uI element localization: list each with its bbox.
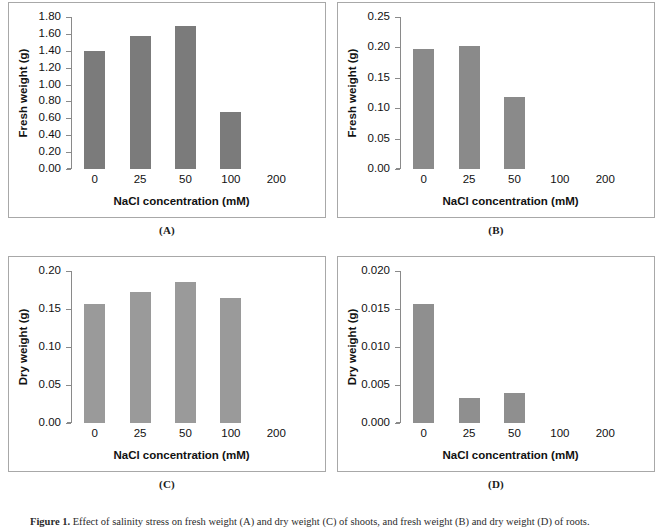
y-tick: 0.10 xyxy=(66,347,71,348)
y-tick: 0.80 xyxy=(66,101,71,102)
y-axis-title-text: Dry weight (g) xyxy=(346,309,358,386)
bar xyxy=(220,298,241,423)
y-tick-label: 1.80 xyxy=(39,9,61,24)
y-tick-label: 0.00 xyxy=(39,415,61,430)
bar xyxy=(504,97,525,169)
x-tick-label: 100 xyxy=(540,427,580,439)
bar xyxy=(413,49,434,169)
x-tick-label: 50 xyxy=(166,173,206,185)
y-tick: 0.20 xyxy=(395,47,400,48)
x-tick-label: 200 xyxy=(585,427,625,439)
y-axis-title-text: Fresh weight (g) xyxy=(17,49,29,138)
bar xyxy=(130,292,151,423)
panel-frame: Dry weight (g) 0.0000.0050.0100.0150.020… xyxy=(337,256,655,472)
x-tick-label: 200 xyxy=(585,173,625,185)
panel-label-b: (B) xyxy=(337,224,655,236)
x-tick-label: 25 xyxy=(120,173,160,185)
y-tick-label: 0.10 xyxy=(39,339,61,354)
panel-frame: Fresh weight (g) 0.000.200.400.600.801.0… xyxy=(8,2,326,218)
y-tick-label: 0.80 xyxy=(39,93,61,108)
x-tick-label: 50 xyxy=(495,173,535,185)
y-tick-label: 0.15 xyxy=(39,301,61,316)
figure-caption: Figure 1. Effect of salinity stress on f… xyxy=(30,515,640,532)
y-tick-label: 0.00 xyxy=(39,161,61,176)
y-tick: 1.00 xyxy=(66,85,71,86)
y-tick: 0.020 xyxy=(395,271,400,272)
y-tick: 1.40 xyxy=(66,51,71,52)
y-tick: 0.25 xyxy=(395,17,400,18)
bar xyxy=(84,304,105,423)
x-tick-label: 200 xyxy=(256,173,296,185)
y-tick: 0.010 xyxy=(395,347,400,348)
bar xyxy=(175,26,196,169)
plot-area: 0.000.050.100.150.20 xyxy=(71,271,299,423)
x-tick-label: 50 xyxy=(495,427,535,439)
y-axis-title: Dry weight (g) xyxy=(344,271,360,423)
chart-panel-c: Dry weight (g) 0.000.050.100.150.20 0255… xyxy=(8,256,328,506)
y-tick: 0.005 xyxy=(395,385,400,386)
y-tick: 0.60 xyxy=(66,118,71,119)
y-tick-label: 1.00 xyxy=(39,77,61,92)
bar-series xyxy=(401,17,628,169)
bar xyxy=(504,393,525,423)
y-tick-label: 0.20 xyxy=(39,263,61,278)
x-tick-label: 0 xyxy=(404,427,444,439)
bar xyxy=(459,398,480,423)
bar-series xyxy=(401,271,628,423)
y-tick-label: 0.010 xyxy=(361,339,390,354)
y-tick-label: 1.20 xyxy=(39,60,61,75)
x-axis-title: NaCl concentration (mM) xyxy=(49,195,314,207)
x-tick-label: 0 xyxy=(75,173,115,185)
x-tick-labels: 02550100200 xyxy=(72,173,299,189)
x-tick-label: 50 xyxy=(166,427,206,439)
x-axis-title: NaCl concentration (mM) xyxy=(49,449,314,461)
chart-panel-a: Fresh weight (g) 0.000.200.400.600.801.0… xyxy=(8,2,328,252)
chart-panel-b: Fresh weight (g) 0.000.050.100.150.200.2… xyxy=(337,2,657,252)
y-tick: 0.40 xyxy=(66,135,71,136)
y-tick: 1.20 xyxy=(66,68,71,69)
x-tick-label: 200 xyxy=(256,427,296,439)
y-tick-label: 0.10 xyxy=(368,100,390,115)
y-tick-label: 0.000 xyxy=(361,415,390,430)
y-tick: 1.80 xyxy=(66,17,71,18)
y-axis-title-text: Dry weight (g) xyxy=(17,309,29,386)
x-tick-label: 25 xyxy=(449,173,489,185)
y-tick-label: 1.60 xyxy=(39,26,61,41)
figure-caption-prefix: Figure 1. xyxy=(30,516,70,527)
panel-label-a: (A) xyxy=(8,224,326,236)
x-axis-title: NaCl concentration (mM) xyxy=(378,195,643,207)
bar xyxy=(220,112,241,169)
bar-series xyxy=(72,17,299,169)
y-tick-label: 0.005 xyxy=(361,377,390,392)
x-tick-labels: 02550100200 xyxy=(72,427,299,443)
y-tick: 0.000 xyxy=(395,423,400,424)
y-axis-title: Fresh weight (g) xyxy=(15,17,31,169)
bar xyxy=(84,51,105,169)
y-tick-label: 0.05 xyxy=(39,377,61,392)
y-tick: 1.60 xyxy=(66,34,71,35)
x-tick-label: 0 xyxy=(404,173,444,185)
x-axis-title: NaCl concentration (mM) xyxy=(378,449,643,461)
figure-caption-text: Effect of salinity stress on fresh weigh… xyxy=(70,516,589,527)
y-tick: 0.00 xyxy=(66,423,71,424)
panel-label-d: (D) xyxy=(337,478,655,490)
y-axis-title-text: Fresh weight (g) xyxy=(346,49,358,138)
y-tick-label: 0.40 xyxy=(39,127,61,142)
y-axis-title: Fresh weight (g) xyxy=(344,17,360,169)
y-tick: 0.20 xyxy=(66,271,71,272)
y-tick-label: 0.05 xyxy=(368,131,390,146)
bar-series xyxy=(72,271,299,423)
panel-frame: Fresh weight (g) 0.000.050.100.150.200.2… xyxy=(337,2,655,218)
y-tick-label: 0.015 xyxy=(361,301,390,316)
x-tick-label: 100 xyxy=(211,427,251,439)
bar xyxy=(459,46,480,169)
x-tick-labels: 02550100200 xyxy=(401,427,628,443)
bar xyxy=(130,36,151,169)
y-tick-label: 0.15 xyxy=(368,70,390,85)
bar xyxy=(175,282,196,423)
plot-area: 0.000.200.400.600.801.001.201.401.601.80 xyxy=(71,17,299,169)
x-tick-label: 100 xyxy=(211,173,251,185)
panel-label-c: (C) xyxy=(8,478,326,490)
y-tick: 0.05 xyxy=(66,385,71,386)
y-tick: 0.15 xyxy=(66,309,71,310)
